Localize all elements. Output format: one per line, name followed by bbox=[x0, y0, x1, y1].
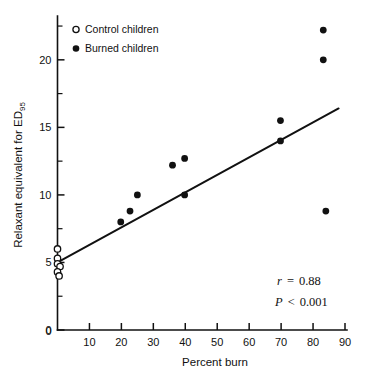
plot-canvas: 05101520 0102030405060708090 Percent bur… bbox=[0, 0, 389, 385]
y-tick-label: 5 bbox=[45, 256, 51, 268]
data-point-control-child bbox=[54, 246, 60, 252]
data-point-burned-child bbox=[320, 27, 327, 34]
data-point-burned-child bbox=[181, 155, 188, 162]
series-burned-children-points bbox=[117, 27, 329, 226]
scatter-plot-figure: 05101520 0102030405060708090 Percent bur… bbox=[0, 0, 389, 385]
data-point-burned-child bbox=[134, 192, 141, 199]
legend-label-burned-children: Burned children bbox=[85, 42, 159, 54]
y-tick-label: 20 bbox=[39, 54, 51, 66]
annotation-correlation-relation: = bbox=[287, 274, 294, 288]
y-tick-label: 15 bbox=[39, 121, 51, 133]
annotation-pvalue-symbol: P bbox=[274, 295, 283, 309]
annotation-correlation: r=0.88 bbox=[277, 274, 321, 288]
annotation-pvalue: P<0.001 bbox=[274, 295, 328, 309]
annotation-correlation-value: 0.88 bbox=[299, 274, 321, 288]
data-point-control-child bbox=[56, 273, 62, 279]
data-point-burned-child bbox=[277, 117, 284, 124]
x-tick-label: 90 bbox=[339, 336, 351, 348]
legend-marker-open-circle bbox=[73, 26, 79, 32]
legend: Control children Burned children bbox=[73, 23, 159, 54]
x-tick-label: 0 bbox=[45, 325, 51, 337]
y-axis-title-subscript: 95 bbox=[18, 102, 27, 111]
annotation-correlation-symbol: r bbox=[277, 274, 282, 288]
data-point-burned-child bbox=[117, 219, 124, 226]
annotation-pvalue-relation: < bbox=[288, 295, 295, 309]
regression-line-group bbox=[58, 108, 339, 262]
x-tick-label: 40 bbox=[179, 336, 191, 348]
x-axis-tick-labels: 0102030405060708090 bbox=[45, 325, 351, 348]
regression-line bbox=[58, 108, 339, 262]
y-axis-title: Relaxant equivalent for ED95 bbox=[12, 102, 27, 248]
x-tick-label: 50 bbox=[211, 336, 223, 348]
y-tick-label: 10 bbox=[39, 189, 51, 201]
legend-marker-filled-circle bbox=[73, 45, 80, 52]
x-axis-ticks bbox=[89, 323, 345, 330]
x-tick-label: 20 bbox=[115, 336, 127, 348]
x-axis-title-group: Percent burn bbox=[182, 356, 248, 368]
y-axis-title-group: Relaxant equivalent for ED95 bbox=[12, 102, 27, 248]
data-point-burned-child bbox=[277, 137, 284, 144]
x-axis-title: Percent burn bbox=[182, 356, 248, 368]
annotation-pvalue-value: 0.001 bbox=[300, 295, 328, 309]
data-point-burned-child bbox=[169, 162, 176, 169]
data-point-burned-child bbox=[322, 208, 329, 215]
x-tick-label: 70 bbox=[275, 336, 287, 348]
data-point-burned-child bbox=[320, 56, 327, 63]
x-tick-label: 60 bbox=[243, 336, 255, 348]
x-tick-label: 80 bbox=[307, 336, 319, 348]
y-axis-tick-labels: 05101520 bbox=[39, 54, 51, 336]
y-axis-ticks bbox=[58, 26, 65, 330]
legend-label-control-children: Control children bbox=[85, 23, 159, 35]
data-point-burned-child bbox=[181, 192, 188, 199]
y-axis-title-base: Relaxant equivalent for ED bbox=[12, 111, 24, 248]
statistics-annotation: r=0.88 P<0.001 bbox=[274, 274, 328, 309]
x-tick-label: 30 bbox=[147, 336, 159, 348]
data-point-burned-child bbox=[127, 208, 134, 215]
x-tick-label: 10 bbox=[83, 336, 95, 348]
